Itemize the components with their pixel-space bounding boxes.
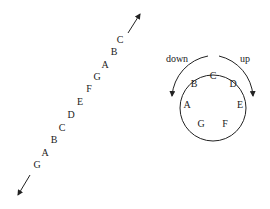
line-notes: C B A G F E D C B A G	[33, 34, 123, 170]
line-note: B	[111, 46, 118, 57]
circle-note-e: E	[237, 99, 243, 110]
up-label: up	[240, 53, 250, 64]
down-label: down	[166, 53, 188, 64]
circle-note-g: G	[197, 118, 204, 129]
line-note: C	[117, 34, 124, 45]
up-arrow	[128, 14, 140, 33]
line-note: G	[93, 71, 100, 82]
down-arrow	[18, 175, 30, 195]
line-note: A	[101, 59, 109, 70]
circle-note-f: F	[222, 118, 228, 129]
circle-note-c: C	[210, 70, 217, 81]
line-note: E	[77, 96, 83, 107]
line-note: G	[33, 159, 40, 170]
diagram-canvas: C B A G F E D C B A G down up C D E F G …	[0, 0, 270, 209]
line-note: B	[51, 134, 58, 145]
line-note: C	[59, 122, 66, 133]
circle-note-d: D	[229, 78, 236, 89]
line-note: A	[41, 147, 49, 158]
line-note: D	[67, 109, 74, 120]
circle-note-b: B	[191, 78, 198, 89]
circle-note-a: A	[183, 99, 191, 110]
line-note: F	[86, 83, 92, 94]
circle-notes: C D E F G A B	[183, 70, 243, 129]
